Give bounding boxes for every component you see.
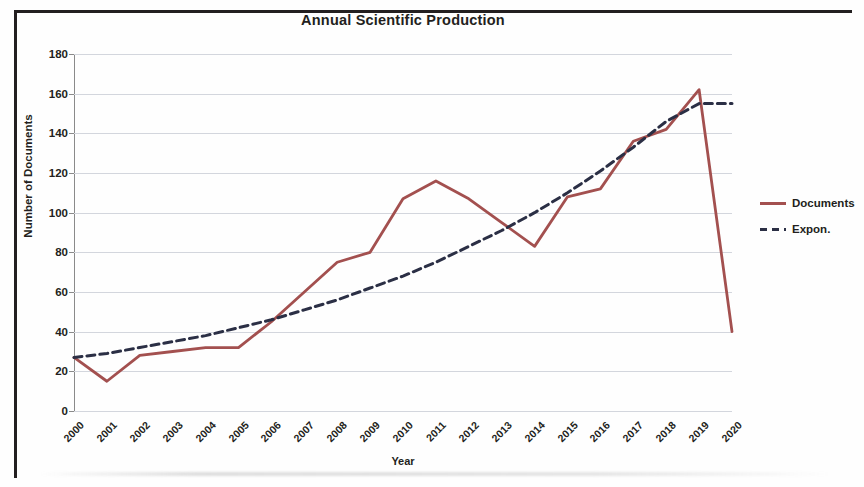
- x-tick-label-2000: 2000: [61, 419, 86, 444]
- scan-artifact: [40, 472, 830, 476]
- y-tick-label-100: 100: [28, 207, 68, 219]
- legend-label: Expon.: [792, 223, 830, 235]
- legend-label: Documents: [792, 197, 855, 209]
- x-tick-label-2016: 2016: [587, 419, 612, 444]
- annual-scientific-production-chart: Annual Scientific Production Number of D…: [0, 0, 864, 487]
- legend-swatch-solid-line-icon: [760, 198, 786, 208]
- x-tick-label-2009: 2009: [357, 419, 382, 444]
- y-tick-label-160: 160: [28, 88, 68, 100]
- x-tick-label-2010: 2010: [390, 419, 415, 444]
- x-tick-label-2005: 2005: [225, 419, 250, 444]
- y-tick-label-60: 60: [28, 286, 68, 298]
- x-tick-label-2019: 2019: [686, 419, 711, 444]
- x-axis-title: Year: [74, 455, 732, 467]
- series-canvas: [74, 54, 732, 411]
- x-tick-label-2001: 2001: [94, 419, 119, 444]
- y-tick-label-40: 40: [28, 326, 68, 338]
- x-tick-label-2020: 2020: [719, 419, 744, 444]
- x-tick-label-2002: 2002: [127, 419, 152, 444]
- y-tick-label-0: 0: [28, 405, 68, 417]
- y-tick-label-120: 120: [28, 167, 68, 179]
- x-tick-label-2007: 2007: [291, 419, 316, 444]
- x-tick-label-2014: 2014: [522, 419, 547, 444]
- y-tick-label-80: 80: [28, 246, 68, 258]
- x-tick-label-2015: 2015: [554, 419, 579, 444]
- legend-item-documents[interactable]: Documents: [760, 190, 864, 216]
- y-tick-label-180: 180: [28, 48, 68, 60]
- chart-title: Annual Scientific Production: [74, 12, 732, 28]
- x-tick-label-2012: 2012: [456, 419, 481, 444]
- plot-area: [74, 54, 732, 411]
- x-tick-label-2006: 2006: [258, 419, 283, 444]
- y-tick-label-20: 20: [28, 365, 68, 377]
- x-tick-label-2017: 2017: [620, 419, 645, 444]
- x-tick-label-2004: 2004: [193, 419, 218, 444]
- y-axis-tick-labels: 020406080100120140160180: [22, 54, 68, 411]
- x-tick-label-2013: 2013: [489, 419, 514, 444]
- x-tick-label-2018: 2018: [653, 419, 678, 444]
- legend-swatch-dashed-line-icon: [760, 224, 786, 234]
- x-tick-label-2011: 2011: [423, 419, 448, 444]
- x-tick-label-2008: 2008: [324, 419, 349, 444]
- y-tick-label-140: 140: [28, 127, 68, 139]
- x-tick-label-2003: 2003: [160, 419, 185, 444]
- x-axis-tick-labels: 2000200120022003200420052006200720082009…: [74, 411, 732, 459]
- legend-item-expon[interactable]: Expon.: [760, 216, 864, 242]
- series-line-documents: [74, 90, 732, 382]
- chart-legend: DocumentsExpon.: [760, 190, 864, 242]
